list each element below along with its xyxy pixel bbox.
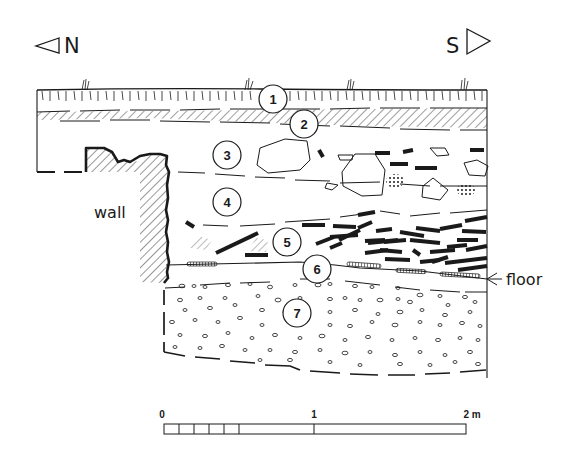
svg-text:1: 1 <box>269 92 276 107</box>
north-label: N <box>64 34 80 58</box>
scale-bar: 0 1 2 m <box>159 409 481 434</box>
svg-text:2: 2 <box>300 117 307 132</box>
wall-label: wall <box>94 203 126 222</box>
svg-text:3: 3 <box>223 148 230 163</box>
floor-label: floor <box>506 270 543 289</box>
pebbles-layer-7 <box>170 283 483 367</box>
layer-marker-7: 7 <box>283 299 311 327</box>
svg-text:7: 7 <box>293 306 300 321</box>
layer-2-hatched <box>37 108 487 130</box>
triangle-right-icon <box>467 29 490 54</box>
hatched-patches-layer-5 <box>190 236 268 252</box>
layer-6-7-boundary <box>165 279 487 292</box>
layer-7-outline <box>164 290 486 375</box>
section-drawing: N S <box>0 0 583 459</box>
svg-text:4: 4 <box>223 195 231 210</box>
charcoal-dots <box>386 174 475 197</box>
south-indicator: S <box>446 29 490 58</box>
north-indicator: N <box>36 34 80 58</box>
layer-marker-2: 2 <box>290 110 318 138</box>
layer-marker-3: 3 <box>213 141 241 169</box>
stones-layer-3 <box>257 139 488 200</box>
layer-4-5-boundary <box>203 210 487 226</box>
wall: wall <box>86 148 169 283</box>
layer-marker-6: 6 <box>303 255 331 283</box>
svg-text:6: 6 <box>313 262 320 277</box>
south-label: S <box>446 34 459 58</box>
fragments-layer-5 <box>186 212 487 270</box>
triangle-left-icon <box>36 38 59 53</box>
layer-marker-5: 5 <box>273 228 301 256</box>
scale-tick-0: 0 <box>159 409 165 420</box>
layer-marker-4: 4 <box>213 188 241 216</box>
scale-tick-2: 2 m <box>463 409 480 420</box>
layer-marker-1: 1 <box>259 85 287 113</box>
floor-pointer: floor <box>487 270 543 289</box>
scale-tick-1: 1 <box>311 409 317 420</box>
svg-text:5: 5 <box>283 235 290 250</box>
fragments-layer-3 <box>319 150 484 168</box>
